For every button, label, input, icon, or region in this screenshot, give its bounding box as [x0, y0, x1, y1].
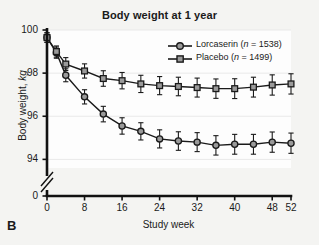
legend-marker-square [177, 56, 183, 62]
data-point-circle [175, 138, 181, 144]
data-point-circle [138, 128, 144, 134]
data-point-circle [81, 94, 87, 100]
data-point-square [232, 86, 238, 92]
data-point-square [288, 81, 294, 87]
data-point-circle [269, 139, 275, 145]
data-point-square [194, 85, 200, 91]
data-point-circle [157, 136, 163, 142]
data-point-square [63, 61, 69, 67]
data-point-circle [119, 123, 125, 129]
figure-panel: Body weight at 1 year B Body weight, kg … [0, 0, 319, 245]
data-point-square [251, 84, 257, 90]
data-point-circle [63, 72, 69, 78]
data-point-circle [232, 141, 238, 147]
data-point-circle [213, 142, 219, 148]
data-point-square [119, 78, 125, 84]
data-point-square [100, 76, 106, 82]
legend-label: Placebo (n = 1499) [196, 52, 306, 62]
data-point-square [82, 68, 88, 74]
data-point-square [138, 81, 144, 87]
data-point-circle [288, 140, 294, 146]
data-point-square [175, 84, 181, 90]
data-point-circle [250, 141, 256, 147]
data-point-circle [194, 139, 200, 145]
data-point-circle [100, 111, 106, 117]
chart-plot-area: Lorcaserin (n = 1538)Placebo (n = 1499) [0, 0, 319, 245]
data-point-square [53, 49, 59, 55]
legend-marker-circle [177, 43, 184, 50]
data-point-square [269, 82, 275, 88]
data-point-square [157, 83, 163, 89]
legend-label: Lorcaserin (n = 1538) [196, 39, 306, 49]
data-point-square [213, 86, 219, 92]
